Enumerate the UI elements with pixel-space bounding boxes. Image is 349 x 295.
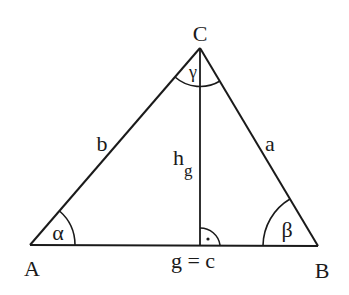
vertex-label-b: B	[315, 258, 330, 283]
angle-label-gamma: γ	[188, 62, 197, 82]
vertex-label-a: A	[24, 256, 40, 281]
right-angle-dot	[206, 237, 209, 240]
triangle-diagram: C A B b a g = c h g α γ β	[0, 0, 349, 295]
angle-label-beta: β	[281, 217, 292, 242]
side-c-base	[30, 245, 318, 246]
diagram-canvas: C A B b a g = c h g α γ β	[0, 0, 349, 295]
altitude-label-h: h	[173, 145, 184, 170]
altitude-label-subscript-g: g	[184, 161, 193, 180]
side-label-b: b	[97, 131, 108, 156]
angle-label-alpha: α	[52, 220, 64, 245]
angle-gamma-arc	[175, 77, 220, 87]
side-label-a: a	[265, 131, 275, 156]
side-a	[200, 48, 318, 246]
right-angle-arc	[200, 228, 220, 245]
vertex-label-c: C	[193, 21, 208, 46]
base-label-g-equals-c: g = c	[171, 248, 215, 273]
